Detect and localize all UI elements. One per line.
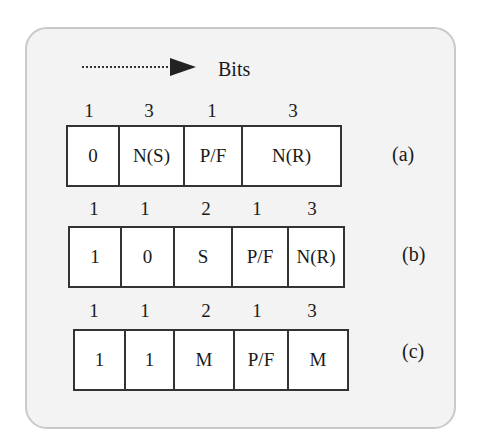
dotted-arrow-line-icon — [82, 66, 172, 68]
bit-count: 1 — [252, 300, 262, 322]
bit-count: 1 — [140, 300, 150, 322]
format-label: (b) — [402, 243, 425, 266]
arrow-head-icon — [170, 58, 196, 76]
frame-format-b: 1 0 S P/F N(R) — [68, 226, 345, 288]
bit-count: 3 — [288, 100, 298, 122]
field-cell: 1 — [70, 228, 122, 286]
format-label: (a) — [392, 143, 414, 166]
bit-count: 1 — [207, 100, 217, 122]
bits-label: Bits — [218, 58, 250, 81]
field-cell: N(R) — [289, 228, 343, 286]
field-cell: P/F — [185, 127, 243, 185]
bit-count: 2 — [201, 198, 211, 220]
bit-count: 1 — [89, 198, 99, 220]
field-cell: M — [175, 331, 235, 389]
bit-count: 2 — [201, 300, 211, 322]
frame-format-a: 0 N(S) P/F N(R) — [66, 125, 342, 187]
bit-count: 3 — [307, 198, 317, 220]
field-cell: S — [175, 228, 233, 286]
bit-count: 1 — [252, 198, 262, 220]
format-label: (c) — [402, 340, 424, 363]
field-cell: P/F — [235, 331, 289, 389]
bit-count: 3 — [144, 100, 154, 122]
frame-format-c: 1 1 M P/F M — [73, 329, 349, 391]
field-cell: P/F — [233, 228, 289, 286]
bit-count: 1 — [89, 300, 99, 322]
bit-count: 3 — [307, 300, 317, 322]
field-cell: 1 — [126, 331, 175, 389]
bit-count: 1 — [140, 198, 150, 220]
field-cell: N(S) — [120, 127, 185, 185]
field-cell: N(R) — [243, 127, 340, 185]
field-cell: 0 — [68, 127, 120, 185]
field-cell: 0 — [122, 228, 175, 286]
field-cell: 1 — [75, 331, 126, 389]
field-cell: M — [289, 331, 347, 389]
bit-count: 1 — [84, 100, 94, 122]
